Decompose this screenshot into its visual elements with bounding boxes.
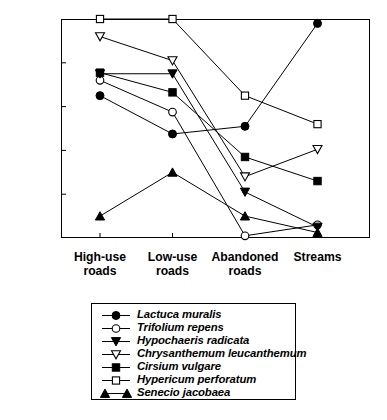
- legend-label: Senecio jacobaea: [137, 386, 230, 399]
- chart-legend: Lactuca muralisTrifolium repensHypochaer…: [91, 303, 296, 400]
- legend-symbol: [99, 387, 137, 400]
- legend-marker-open-down-triangle-icon: [99, 347, 137, 360]
- legend-item: Lactuca muralis: [92, 308, 295, 321]
- legend-label: Trifolium repens: [137, 321, 224, 334]
- x-tick-label-line: roads: [202, 265, 288, 279]
- legend-item: Cirsium vulgare: [92, 360, 295, 373]
- legend-label: Lactuca muralis: [137, 308, 222, 321]
- chart-figure: Proportion of sampling units Lactuca mur…: [0, 0, 387, 420]
- legend-label: Chrysanthemum leucanthemum: [137, 347, 306, 360]
- legend-marker: [112, 364, 119, 371]
- legend-label: Hypochaeris radicata: [137, 334, 249, 347]
- legend-marker-filled-up-triangle-icon: [99, 386, 137, 399]
- legend-marker: [112, 325, 120, 333]
- plot-area: [61, 19, 370, 238]
- legend-item: Chrysanthemum leucanthemum: [92, 347, 295, 360]
- legend-label: Cirsium vulgare: [137, 360, 221, 373]
- legend-item: Senecio jacobaea: [92, 386, 295, 399]
- legend-marker-open-square-icon: [99, 373, 137, 386]
- legend-marker: [112, 312, 120, 320]
- legend-marker-filled-square-icon: [99, 360, 137, 373]
- legend-item: Hypericum perforatum: [92, 373, 295, 386]
- legend-marker-filled-circle-icon: [99, 308, 137, 321]
- legend-marker: [112, 377, 119, 384]
- x-tick-label-line: Streams: [275, 251, 361, 265]
- x-tick-label: Streams: [275, 251, 361, 265]
- legend-marker-open-circle-icon: [99, 321, 137, 334]
- legend-item: Trifolium repens: [92, 321, 295, 334]
- legend-item: Hypochaeris radicata: [92, 334, 295, 347]
- legend-marker-filled-down-triangle-icon: [99, 334, 137, 347]
- legend-label: Hypericum perforatum: [137, 373, 256, 386]
